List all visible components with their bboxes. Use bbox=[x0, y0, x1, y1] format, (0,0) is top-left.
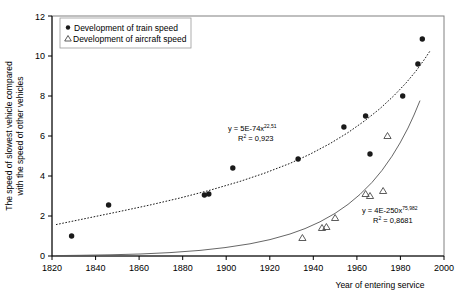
y-axis-title-line1: The speed of slowest vehicle compared bbox=[4, 61, 14, 211]
y-axis-ticks bbox=[48, 16, 52, 256]
aircraft-equation-exponent: 75,982 bbox=[402, 205, 418, 211]
aircraft-r2-value: = 0,8681 bbox=[381, 216, 413, 225]
chart-container: 0 2 4 6 8 10 12 1820 1840 1860 1880 1900… bbox=[0, 0, 468, 296]
y-axis-title-line2: with the speed of other vehicles bbox=[15, 76, 25, 196]
train-point bbox=[400, 93, 405, 98]
x-tick-label-2000: 2000 bbox=[434, 263, 454, 273]
x-tick-label-1880: 1880 bbox=[173, 263, 193, 273]
x-axis-title: Year of entering service bbox=[336, 280, 425, 290]
train-point bbox=[420, 36, 425, 41]
train-r2-value: = 0,923 bbox=[246, 134, 273, 143]
y-tick-label-10: 10 bbox=[35, 51, 45, 61]
aircraft-equation-base: y = 4E-250x bbox=[362, 206, 402, 215]
x-tick-label-1840: 1840 bbox=[86, 263, 106, 273]
train-point bbox=[295, 156, 300, 161]
train-point bbox=[69, 233, 74, 238]
legend-label-aircraft: Development of aircraft speed bbox=[73, 34, 187, 44]
chart-legend: Development of train speed Development o… bbox=[60, 18, 191, 48]
y-tick-label-4: 4 bbox=[40, 171, 45, 181]
train-point bbox=[363, 113, 368, 118]
y-tick-label-2: 2 bbox=[40, 211, 45, 221]
train-equation-line2: R2 = 0,923 bbox=[238, 133, 274, 143]
x-tick-label-1820: 1820 bbox=[42, 263, 62, 273]
y-tick-label-12: 12 bbox=[35, 12, 45, 22]
x-tick-label-1860: 1860 bbox=[129, 263, 149, 273]
train-point bbox=[106, 202, 111, 207]
x-tick-label-1920: 1920 bbox=[260, 263, 280, 273]
train-point bbox=[367, 151, 372, 156]
x-axis-ticks bbox=[52, 256, 444, 260]
train-point bbox=[230, 165, 235, 170]
train-equation-exponent: 22,51 bbox=[264, 123, 277, 129]
x-tick-label-1960: 1960 bbox=[347, 263, 367, 273]
speed-development-scatter-chart: 0 2 4 6 8 10 12 1820 1840 1860 1880 1900… bbox=[0, 0, 468, 296]
y-tick-label-6: 6 bbox=[40, 131, 45, 141]
y-tick-label-8: 8 bbox=[40, 91, 45, 101]
train-equation-base: y = 5E-74x bbox=[228, 124, 264, 133]
y-tick-label-0: 0 bbox=[40, 251, 45, 261]
legend-train-marker-icon bbox=[66, 25, 70, 29]
x-tick-label-1980: 1980 bbox=[390, 263, 410, 273]
train-point bbox=[206, 191, 211, 196]
legend-label-train: Development of train speed bbox=[74, 23, 178, 33]
train-point bbox=[341, 124, 346, 129]
x-tick-label-1940: 1940 bbox=[303, 263, 323, 273]
train-point bbox=[415, 61, 420, 66]
x-tick-label-1900: 1900 bbox=[216, 263, 236, 273]
